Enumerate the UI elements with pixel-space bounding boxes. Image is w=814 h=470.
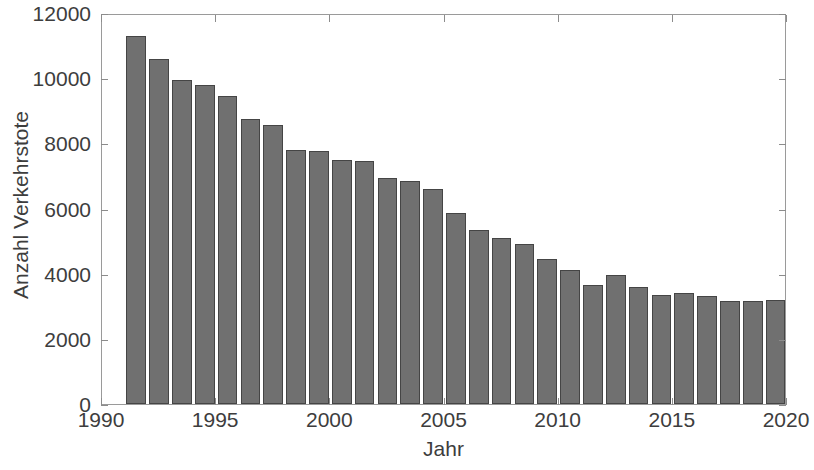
- y-tick-mark: [101, 210, 108, 211]
- bar: [263, 125, 283, 404]
- bar: [629, 287, 649, 404]
- y-tick-mark: [101, 340, 108, 341]
- y-tick-mark: [101, 14, 108, 15]
- bar: [560, 270, 580, 404]
- bar: [332, 160, 352, 404]
- bar: [218, 96, 238, 404]
- bar: [720, 301, 740, 404]
- x-tick-mark-top: [786, 15, 787, 22]
- bar: [286, 150, 306, 404]
- bar: [126, 36, 146, 404]
- y-tick-label: 6000: [5, 199, 91, 220]
- y-tick-mark-right: [779, 405, 786, 406]
- y-tick-mark: [101, 79, 108, 80]
- x-tick-mark: [444, 398, 445, 405]
- x-tick-mark-top: [672, 15, 673, 22]
- bar: [469, 230, 489, 404]
- x-tick-mark-top: [329, 15, 330, 22]
- bar: [172, 80, 192, 404]
- y-tick-mark-right: [779, 144, 786, 145]
- bar: [195, 85, 215, 404]
- x-tick-mark: [672, 398, 673, 405]
- x-tick-mark-top: [101, 15, 102, 22]
- bar: [606, 275, 626, 404]
- bar: [400, 181, 420, 404]
- x-tick-label: 2005: [399, 409, 489, 430]
- bar: [652, 295, 672, 404]
- y-tick-mark-right: [779, 14, 786, 15]
- bar: [515, 244, 535, 404]
- x-tick-mark: [558, 398, 559, 405]
- y-tick-mark-right: [779, 210, 786, 211]
- bar: [492, 238, 512, 404]
- bar: [423, 189, 443, 404]
- bar: [743, 301, 763, 404]
- x-tick-mark: [786, 398, 787, 405]
- x-axis-title: Jahr: [101, 437, 786, 461]
- x-tick-mark: [215, 398, 216, 405]
- x-tick-mark: [329, 398, 330, 405]
- bar: [241, 119, 261, 404]
- bar: [446, 213, 466, 404]
- y-tick-mark: [101, 275, 108, 276]
- y-tick-mark-right: [779, 79, 786, 80]
- x-tick-label: 2010: [513, 409, 603, 430]
- x-tick-label: 2015: [627, 409, 717, 430]
- bar: [697, 296, 717, 404]
- x-tick-label: 2000: [284, 409, 374, 430]
- x-tick-mark-top: [215, 15, 216, 22]
- y-tick-mark-right: [779, 340, 786, 341]
- x-tick-mark-top: [444, 15, 445, 22]
- y-tick-mark: [101, 144, 108, 145]
- bars-container: [102, 15, 785, 404]
- bar: [766, 300, 785, 404]
- bar: [378, 178, 398, 404]
- bar: [309, 151, 329, 404]
- bar: [355, 161, 375, 404]
- y-tick-label: 10000: [5, 68, 91, 89]
- x-tick-label: 2020: [741, 409, 814, 430]
- bar: [537, 259, 557, 404]
- y-tick-label: 12000: [5, 3, 91, 24]
- x-tick-label: 1990: [56, 409, 146, 430]
- y-tick-mark: [101, 405, 108, 406]
- y-tick-label: 4000: [5, 264, 91, 285]
- y-tick-mark-right: [779, 275, 786, 276]
- y-tick-label: 8000: [5, 133, 91, 154]
- plot-area-border: [101, 14, 786, 405]
- bar: [149, 59, 169, 404]
- x-tick-mark: [101, 398, 102, 405]
- x-tick-mark-top: [558, 15, 559, 22]
- x-tick-label: 1995: [170, 409, 260, 430]
- bar: [583, 285, 603, 404]
- y-tick-label: 2000: [5, 329, 91, 350]
- bar: [674, 293, 694, 404]
